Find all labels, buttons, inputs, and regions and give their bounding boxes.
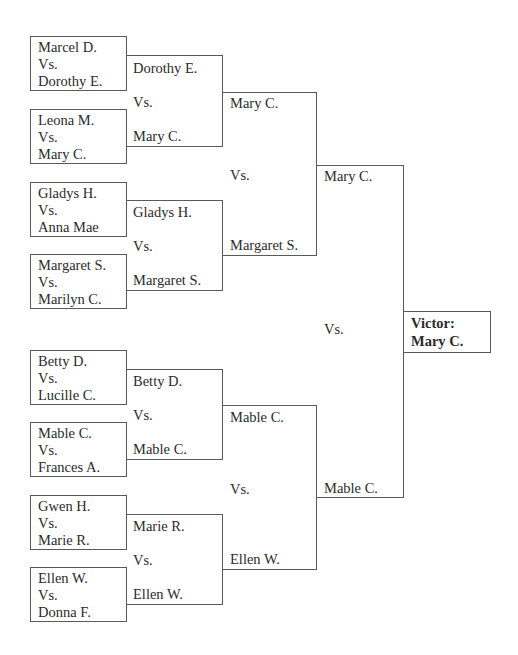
r2m3-top: Betty D. — [133, 372, 182, 390]
r2m1-right-line — [222, 55, 223, 147]
r1m6-top: Mable C. — [38, 424, 92, 442]
r3m1-right-line — [316, 92, 317, 256]
r1m1-top: Marcel D. — [38, 38, 97, 56]
r2m1-bottom-line — [126, 146, 223, 147]
r3m1-bottom-line — [222, 255, 317, 256]
r3m1-top-line — [222, 92, 317, 93]
r1m6-bottom: Frances A. — [38, 458, 100, 476]
r3m1-vs: Vs. — [230, 166, 250, 184]
final-top: Mary C. — [324, 167, 372, 185]
r2m4-vs: Vs. — [133, 551, 153, 569]
r1m5-bottom: Lucille C. — [38, 386, 96, 404]
r1m3-top: Gladys H. — [38, 184, 97, 202]
r2m4-bottom: Ellen W. — [133, 585, 183, 603]
r2m4-bottom-line — [126, 604, 223, 605]
r3m2-right-line — [316, 405, 317, 570]
r2m4-top-line — [126, 514, 223, 515]
r1m8-vs: Vs. — [38, 586, 58, 604]
r3m1-top: Mary C. — [230, 94, 278, 112]
r1m2-bottom: Mary C. — [38, 145, 86, 163]
r1m8-top: Ellen W. — [38, 569, 88, 587]
r3m2-bottom-line — [222, 569, 317, 570]
r1m2-vs: Vs. — [38, 128, 58, 146]
r3m2-top-line — [222, 405, 317, 406]
r2m2-top-line — [126, 200, 223, 201]
r2m1-bottom: Mary C. — [133, 127, 181, 145]
r1m3-bottom: Anna Mae — [38, 218, 99, 236]
r2m3-right-line — [222, 369, 223, 460]
r2m1-top: Dorothy E. — [133, 59, 197, 77]
r1m5-top: Betty D. — [38, 352, 87, 370]
r3m2-vs: Vs. — [230, 480, 250, 498]
victor-label: Victor: — [411, 314, 455, 332]
r2m1-top-line — [126, 55, 223, 56]
r3m2-top: Mable C. — [230, 408, 284, 426]
r2m2-top: Gladys H. — [133, 203, 192, 221]
victor-name: Mary C. — [411, 332, 463, 350]
r1m1-bottom: Dorothy E. — [38, 72, 102, 90]
r1m8-bottom: Donna F. — [38, 603, 91, 621]
r1m4-vs: Vs. — [38, 273, 58, 291]
r2m2-right-line — [222, 200, 223, 291]
final-vs: Vs. — [324, 320, 344, 338]
r2m1-vs: Vs. — [133, 93, 153, 111]
r1m5-vs: Vs. — [38, 369, 58, 387]
r1m7-vs: Vs. — [38, 514, 58, 532]
r1m4-top: Margaret S. — [38, 256, 106, 274]
r2m2-vs: Vs. — [133, 237, 153, 255]
r1m3-vs: Vs. — [38, 201, 58, 219]
final-top-line — [316, 165, 404, 166]
r2m3-vs: Vs. — [133, 406, 153, 424]
r1m7-bottom: Marie R. — [38, 531, 90, 549]
r1m6-vs: Vs. — [38, 441, 58, 459]
r2m3-bottom-line — [126, 459, 223, 460]
r1m2-top: Leona M. — [38, 111, 94, 129]
r2m3-top-line — [126, 369, 223, 370]
final-bottom-line — [316, 497, 404, 498]
r2m4-top: Marie R. — [133, 517, 185, 535]
r2m3-bottom: Mable C. — [133, 440, 187, 458]
r3m2-bottom: Ellen W. — [230, 550, 280, 568]
r1m7-top: Gwen H. — [38, 497, 90, 515]
r1m4-bottom: Marilyn C. — [38, 290, 102, 308]
final-bottom: Mable C. — [324, 479, 378, 497]
r2m2-bottom-line — [126, 290, 223, 291]
r3m1-bottom: Margaret S. — [230, 236, 298, 254]
r2m2-bottom: Margaret S. — [133, 271, 201, 289]
r1m1-vs: Vs. — [38, 55, 58, 73]
r2m4-right-line — [222, 514, 223, 605]
